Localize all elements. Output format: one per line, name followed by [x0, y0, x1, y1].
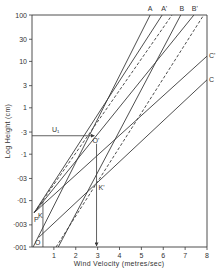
k-prime-label: K'	[99, 184, 105, 191]
series-label-c-prime: C'	[209, 52, 215, 59]
series-label-b-prime: B'	[192, 5, 198, 12]
series-line-b-	[34, 15, 194, 213]
y-tick-label: 30	[19, 36, 27, 43]
x-ticks: 12345678	[52, 247, 209, 259]
y-tick-label: ·003	[13, 221, 27, 228]
o-label: O	[35, 239, 41, 246]
x-tick-label: 1	[52, 252, 56, 259]
series-label-a-prime: A'	[161, 5, 167, 12]
y-tick-label: ·3	[21, 129, 27, 136]
series-line-b	[58, 15, 181, 247]
series-label-c: C	[209, 76, 214, 83]
x-tick-label: 7	[183, 252, 187, 259]
y-tick-label: ·001	[13, 244, 27, 251]
x-tick-label: 8	[205, 252, 209, 259]
wind-profile-chart: 100301031·3·1·03·01·003·001 12345678 U₁O…	[0, 0, 224, 274]
k-label: K	[38, 212, 43, 219]
y-axis-title: Log Height (cm)	[4, 104, 12, 158]
series-end-labels: AA'BB'C'C	[148, 5, 216, 83]
series-line-b-dashed	[56, 15, 204, 247]
o-prime-label: O'	[92, 137, 99, 144]
x-tick-label: 5	[139, 252, 143, 259]
y-tick-label: 100	[15, 12, 27, 19]
y-tick-label: 1	[23, 104, 27, 111]
x-tick-label: 6	[161, 252, 165, 259]
y-tick-label: ·01	[17, 197, 27, 204]
x-axis-title: Wind Velocity (metres/sec)	[74, 260, 165, 268]
series-line-a	[33, 15, 150, 247]
u1-label: U₁	[52, 126, 60, 133]
series-label-b: B	[179, 5, 184, 12]
y-tick-label: ·03	[17, 175, 27, 182]
y-tick-label: 3	[23, 82, 27, 89]
series-line-a-dashed	[34, 15, 172, 213]
y-ticks: 100301031·3·1·03·01·003·001	[13, 12, 32, 251]
y-tick-label: 10	[19, 58, 27, 65]
y-tick-label: ·1	[21, 151, 27, 158]
series-label-a: A	[148, 5, 153, 12]
x-tick-label: 3	[96, 252, 100, 259]
x-tick-label: 2	[74, 252, 78, 259]
x-tick-label: 4	[118, 252, 122, 259]
